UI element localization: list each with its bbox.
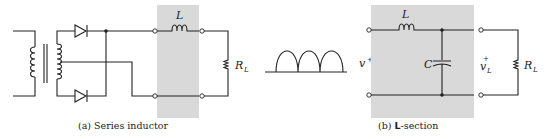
filter-shaded-region bbox=[371, 5, 474, 118]
diode-bottom bbox=[75, 90, 87, 102]
inductor-label: L bbox=[175, 9, 183, 22]
caption-b: (b) L-section bbox=[378, 120, 438, 131]
terminal bbox=[153, 94, 157, 98]
primary-leads bbox=[13, 31, 35, 96]
junction-dot bbox=[104, 29, 108, 33]
figure-b-l-section: v + L C + v L R L (b) L-section bbox=[265, 5, 538, 131]
junction-dot bbox=[440, 28, 444, 32]
load-resistor bbox=[204, 31, 228, 96]
diode-top bbox=[75, 25, 87, 37]
transformer-primary-coil bbox=[31, 47, 36, 80]
load-label: R bbox=[523, 59, 532, 72]
capacitor-label: C bbox=[424, 58, 433, 71]
rectifier-output-wires bbox=[87, 31, 153, 96]
terminal bbox=[367, 93, 371, 97]
circuit-figure: L R L (a) Series inductor v + L C bbox=[0, 0, 546, 139]
svg-text:L: L bbox=[243, 66, 249, 74]
inductor-label: L bbox=[401, 8, 409, 21]
svg-text:L: L bbox=[486, 67, 492, 75]
rectified-waveform bbox=[265, 51, 347, 72]
terminal bbox=[367, 28, 371, 32]
figure-a-series-inductor: L R L (a) Series inductor bbox=[13, 5, 249, 131]
output-voltage-label: v bbox=[480, 60, 487, 73]
terminal bbox=[479, 93, 483, 97]
input-voltage-label: v bbox=[359, 57, 366, 70]
terminal bbox=[153, 29, 157, 33]
terminal bbox=[200, 94, 204, 98]
caption-a: (a) Series inductor bbox=[78, 120, 169, 131]
terminal bbox=[479, 28, 483, 32]
terminal bbox=[200, 29, 204, 33]
load-label: R bbox=[234, 59, 243, 72]
junction-dot bbox=[440, 93, 444, 97]
svg-text:L: L bbox=[532, 66, 538, 74]
